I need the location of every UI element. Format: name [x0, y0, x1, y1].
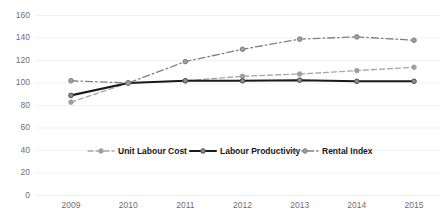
legend-label: Unit Labour Cost: [118, 146, 187, 156]
data-point-marker: [69, 100, 74, 105]
y-axis-tick-label: 140: [16, 32, 30, 42]
y-axis-tick-label: 100: [16, 77, 30, 87]
line-chart: 020406080100120140160 200920102011201220…: [0, 0, 447, 222]
legend-marker-sample: [99, 149, 104, 154]
data-point-marker: [183, 59, 188, 64]
legend-marker-sample: [303, 149, 308, 154]
data-point-marker: [297, 37, 302, 42]
data-point-marker: [69, 93, 74, 98]
y-axis-tick-label: 20: [21, 167, 31, 177]
legend-label: Labour Productivity: [220, 146, 301, 156]
chart-legend: Unit Labour CostLabour ProductivityRenta…: [88, 146, 373, 156]
x-axis-tick-label: 2011: [176, 200, 195, 210]
x-axis-tick-label: 2014: [347, 200, 366, 210]
data-point-marker: [412, 38, 417, 43]
y-axis-tick-label: 120: [16, 55, 30, 65]
x-axis-tick-label: 2010: [119, 200, 138, 210]
x-axis-tick-label: 2012: [233, 200, 252, 210]
x-axis-tick-label: 2013: [290, 200, 309, 210]
y-axis-tick-label: 60: [21, 122, 31, 132]
data-point-marker: [412, 79, 417, 84]
y-axis-tick-label: 40: [21, 145, 31, 155]
data-point-marker: [240, 74, 245, 79]
data-point-marker: [240, 78, 245, 83]
y-axis-tick-label: 160: [16, 10, 30, 20]
chart-background: [0, 0, 447, 222]
data-point-marker: [412, 65, 417, 70]
chart-canvas: 020406080100120140160 200920102011201220…: [0, 0, 447, 222]
data-point-marker: [69, 78, 74, 83]
data-point-marker: [240, 47, 245, 52]
x-axis-tick-label: 2009: [62, 200, 81, 210]
legend-marker-sample: [201, 149, 206, 154]
data-point-marker: [183, 78, 188, 83]
y-axis-tick-label: 80: [21, 100, 31, 110]
y-axis-tick-label: 0: [25, 190, 30, 200]
data-point-marker: [355, 79, 360, 84]
data-point-marker: [297, 72, 302, 77]
data-point-marker: [126, 81, 131, 86]
x-axis-tick-label: 2015: [405, 200, 424, 210]
data-point-marker: [355, 68, 360, 73]
data-point-marker: [297, 78, 302, 83]
legend-label: Rental Index: [322, 146, 373, 156]
data-point-marker: [355, 35, 360, 40]
